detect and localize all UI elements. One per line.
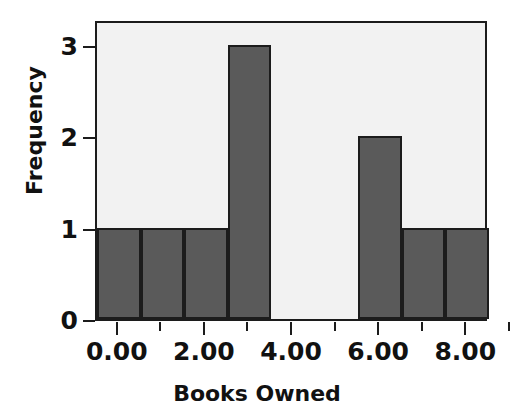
- y-axis-tick-label: 1: [48, 217, 78, 242]
- x-axis-minor-tick: [421, 322, 423, 331]
- y-axis-tick-label: 2: [48, 125, 78, 150]
- x-axis-tick-label: 0.00: [77, 339, 157, 364]
- x-axis-minor-tick: [246, 322, 248, 331]
- x-axis-tick-label: 2.00: [164, 339, 244, 364]
- histogram-bar: [184, 228, 228, 319]
- x-axis-tick-label: 6.00: [338, 339, 418, 364]
- y-axis-title: Frequency: [22, 31, 47, 231]
- histogram-bar: [141, 228, 185, 319]
- histogram-figure: Frequency 3210 0.002.004.006.008.00 Book…: [0, 0, 514, 417]
- y-axis-tick: [83, 46, 95, 48]
- x-axis-major-tick: [464, 322, 466, 335]
- y-axis-tick: [83, 229, 95, 231]
- x-axis-title: Books Owned: [0, 381, 514, 406]
- bars-layer: [97, 23, 485, 319]
- x-axis-minor-tick: [508, 322, 510, 331]
- x-axis-major-tick: [203, 322, 205, 335]
- y-axis-tick: [83, 137, 95, 139]
- y-axis-tick-label: 0: [48, 308, 78, 333]
- histogram-bar: [228, 45, 272, 319]
- x-axis-minor-tick: [334, 322, 336, 331]
- x-axis-tick-label: 8.00: [425, 339, 505, 364]
- plot-area: [95, 21, 487, 321]
- histogram-bar: [402, 228, 446, 319]
- histogram-bar: [97, 228, 141, 319]
- histogram-bar: [445, 228, 489, 319]
- x-axis-major-tick: [116, 322, 118, 335]
- x-axis-major-tick: [290, 322, 292, 335]
- x-axis-tick-label: 4.00: [251, 339, 331, 364]
- y-axis-tick-label: 3: [48, 34, 78, 59]
- histogram-bar: [358, 136, 402, 319]
- y-axis-tick: [83, 320, 95, 322]
- x-axis-major-tick: [377, 322, 379, 335]
- x-axis-minor-tick: [159, 322, 161, 331]
